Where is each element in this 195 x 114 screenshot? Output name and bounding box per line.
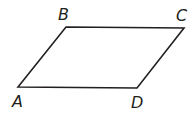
vertex-label-c: C	[176, 6, 188, 25]
parallelogram-abcd	[18, 27, 184, 88]
vertex-label-a: A	[11, 92, 23, 111]
parallelogram-diagram: A B C D	[0, 0, 195, 114]
vertex-label-b: B	[58, 5, 69, 24]
vertex-label-d: D	[131, 93, 143, 112]
